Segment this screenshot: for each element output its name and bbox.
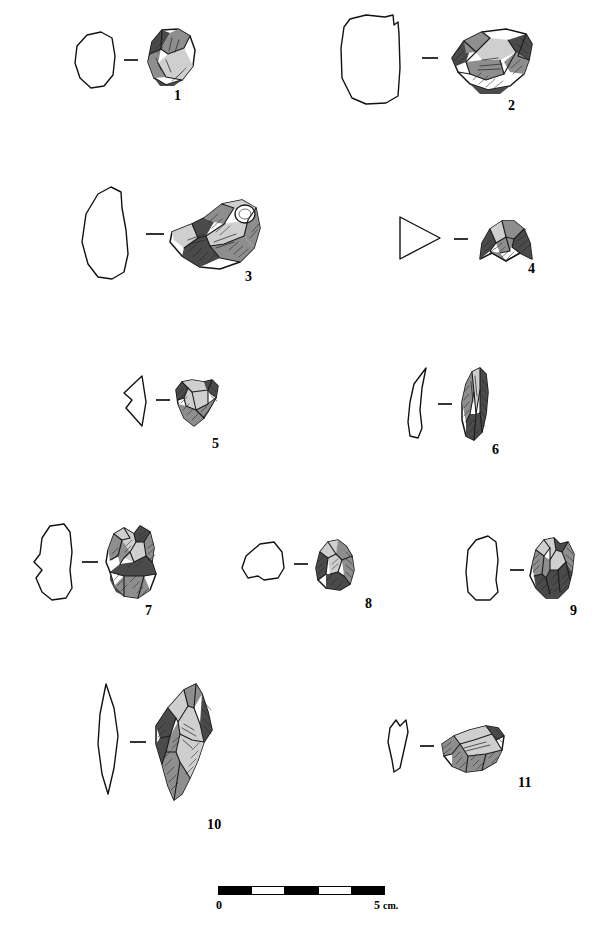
figure-label-4: 4 — [528, 262, 535, 276]
artifact-body-7 — [106, 526, 156, 598]
artifact-body-10 — [156, 684, 212, 800]
artifact-drawing-6 — [400, 362, 512, 449]
artifact-drawing-3 — [64, 178, 266, 285]
scale-end-label: 5 cm. — [374, 899, 398, 911]
section-outline-7 — [34, 524, 72, 600]
artifact-group-3 — [64, 178, 266, 285]
figure-label-3: 3 — [245, 270, 252, 284]
scale-bar — [218, 886, 385, 895]
scale-segment-1 — [218, 886, 251, 895]
artifact-drawing-7 — [18, 518, 165, 605]
section-outline-3 — [82, 187, 128, 279]
artifact-body-4 — [480, 221, 532, 261]
artifact-group-1 — [62, 18, 214, 100]
figure-label-7: 7 — [145, 604, 152, 618]
section-outline-11 — [388, 720, 408, 772]
figure-label-2: 2 — [508, 99, 515, 113]
artifact-body-6 — [462, 368, 488, 440]
artifact-group-7 — [18, 518, 165, 605]
figure-label-1: 1 — [174, 89, 181, 103]
artifact-drawing-2 — [330, 8, 532, 110]
section-outline-10 — [98, 684, 118, 794]
section-outline-1 — [75, 32, 115, 88]
artifact-drawing-4 — [392, 205, 539, 277]
artifact-group-2 — [330, 8, 532, 110]
artifact-body-2 — [452, 29, 532, 94]
scale-segment-4 — [318, 886, 351, 895]
artifact-body-8 — [316, 540, 354, 590]
figure-label-5: 5 — [212, 437, 219, 451]
section-outline-6 — [408, 368, 426, 438]
section-outline-4 — [400, 217, 440, 259]
scale-segment-2 — [251, 886, 284, 895]
artifact-body-3 — [170, 200, 260, 269]
lithic-illustration-plate: 1 — [0, 0, 598, 947]
artifact-drawing-11 — [374, 712, 516, 784]
artifact-drawing-5 — [112, 368, 229, 435]
figure-label-6: 6 — [492, 443, 499, 457]
artifact-body-5 — [176, 380, 218, 426]
artifact-group-4 — [392, 205, 539, 277]
artifact-drawing-9 — [452, 528, 579, 610]
scale-segment-3 — [285, 886, 318, 895]
figure-label-8: 8 — [365, 597, 372, 611]
section-outline-5 — [124, 376, 146, 426]
section-outline-2 — [341, 15, 400, 104]
artifact-body-1 — [148, 29, 195, 86]
artifact-group-8 — [234, 534, 366, 601]
scale-start-label: 0 — [216, 899, 222, 911]
scale-segment-5 — [352, 886, 385, 895]
section-outline-8 — [242, 542, 284, 580]
figure-label-11: 11 — [518, 776, 532, 790]
artifact-group-5 — [112, 368, 229, 435]
artifact-drawing-1 — [62, 18, 214, 100]
figure-label-9: 9 — [570, 604, 577, 618]
artifact-group-9 — [452, 528, 579, 610]
artifact-body-11 — [442, 726, 504, 772]
artifact-group-11 — [374, 712, 516, 784]
scale-unit-label: cm. — [383, 900, 398, 911]
section-outline-9 — [466, 536, 498, 600]
artifact-drawing-8 — [234, 534, 366, 601]
artifact-body-9 — [530, 538, 574, 598]
artifact-group-6 — [400, 362, 512, 449]
figure-label-10: 10 — [207, 818, 221, 832]
artifact-group-10 — [80, 678, 227, 810]
artifact-drawing-10 — [80, 678, 227, 810]
